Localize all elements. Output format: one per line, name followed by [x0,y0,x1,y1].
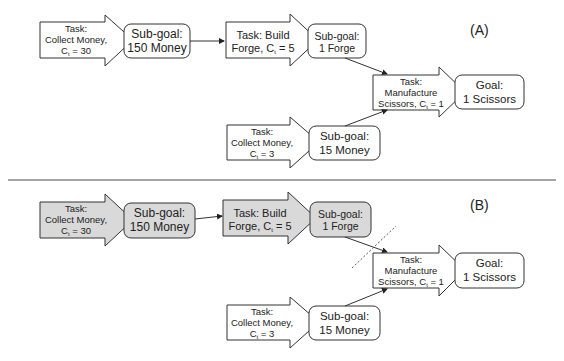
subgoal-label-15-money: Sub-goal: 15 Money [309,130,380,158]
goal-label-1-scissors: Goal: 1 Scissors [455,257,524,285]
task-label-collect-3: Task: Collect Money, Ct = 3 [227,127,297,161]
label-line: Ct = 30 [40,46,112,58]
subgoal-label-150-money: Sub-goal: 150 Money [124,206,195,235]
task-label-collect-30: Task: Collect Money, Ct = 30 [40,204,112,238]
panel-label-b: (B) [470,197,489,213]
task-label-collect-3: Task: Collect Money, Ct = 3 [227,307,297,341]
task-label-collect-30: Task: Collect Money, Ct = 30 [40,24,112,58]
task-label-build-forge: Task: Build Forge, Ct = 5 [223,207,297,234]
task-label-manufacture-scissors: Task: Manufacture Scissors, Ct = 1 [375,77,447,111]
subgoal-label-15-money: Sub-goal: 15 Money [309,310,380,338]
task-label-manufacture-scissors: Task: Manufacture Scissors, Ct = 1 [375,255,447,289]
task-label-build-forge: Task: Build Forge, Ct = 5 [226,29,300,56]
subgoal-label-1-forge: Sub-goal: 1 Forge [308,30,366,54]
subgoal-label-150-money: Sub-goal: 150 Money [124,27,190,56]
goal-label-1-scissors: Goal: 1 Scissors [455,79,524,107]
panel-label-a: (A) [470,22,489,38]
subgoal-label-1-forge: Sub-goal: 1 Forge [310,208,371,232]
